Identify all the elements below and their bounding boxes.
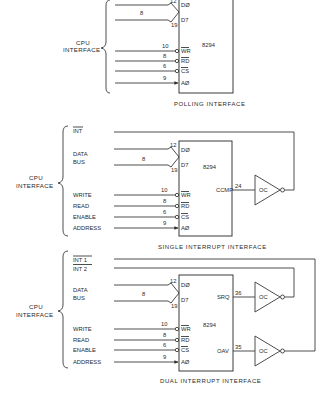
cpu-label: CPU — [29, 303, 43, 310]
int2-label: INT 2 — [73, 266, 87, 272]
svg-text:D7: D7 — [181, 162, 188, 168]
cpu-label: CPU — [76, 39, 90, 46]
diagram-canvas: CPU INTERFACE 8294 8 12 19 DØ D7 10 WR 8… — [0, 0, 334, 405]
svg-text:OAV: OAV — [217, 348, 229, 354]
svg-text:9: 9 — [163, 220, 166, 226]
svg-text:WRITE: WRITE — [73, 192, 92, 198]
svg-text:AØ: AØ — [181, 225, 190, 231]
svg-text:CS: CS — [181, 214, 189, 220]
interface-label: INTERFACE — [16, 311, 53, 318]
chip-label: 8294 — [202, 42, 216, 48]
svg-text:19: 19 — [171, 22, 177, 28]
svg-text:DATA: DATA — [73, 287, 88, 293]
svg-text:19: 19 — [171, 167, 177, 173]
svg-text:CCMP: CCMP — [216, 187, 233, 193]
svg-text:12: 12 — [170, 142, 176, 148]
svg-text:12: 12 — [170, 0, 176, 4]
svg-text:DATA: DATA — [73, 151, 88, 157]
svg-text:CS: CS — [181, 347, 189, 353]
svg-text:AØ: AØ — [181, 359, 190, 365]
svg-text:35: 35 — [235, 344, 241, 350]
svg-text:DØ: DØ — [181, 2, 190, 8]
svg-text:8: 8 — [163, 198, 166, 204]
cpu-interface-brace — [101, 0, 110, 93]
svg-text:WR: WR — [181, 326, 191, 332]
cpu-label: CPU — [29, 174, 43, 181]
svg-text:DØ: DØ — [181, 282, 190, 288]
svg-text:ENABLE: ENABLE — [73, 214, 96, 220]
svg-text:ADDRESS: ADDRESS — [73, 225, 101, 231]
svg-text:10: 10 — [162, 43, 168, 49]
svg-text:8: 8 — [142, 291, 145, 297]
svg-text:WRITE: WRITE — [73, 326, 92, 332]
svg-text:19: 19 — [171, 303, 177, 309]
svg-text:RD: RD — [181, 203, 189, 209]
svg-text:36: 36 — [235, 290, 241, 296]
svg-text:RD: RD — [181, 337, 189, 343]
svg-text:10: 10 — [161, 187, 167, 193]
cpu-interface-brace — [58, 126, 68, 236]
svg-text:OC: OC — [259, 187, 268, 193]
svg-text:6: 6 — [163, 63, 166, 69]
svg-text:ENABLE: ENABLE — [73, 347, 96, 353]
diagram-caption: POLLING INTERFACE — [174, 101, 246, 107]
svg-text:8: 8 — [142, 156, 145, 162]
svg-text:10: 10 — [161, 321, 167, 327]
svg-text:8: 8 — [163, 53, 166, 59]
svg-text:WR: WR — [181, 192, 191, 198]
chip-label: 8294 — [203, 164, 217, 170]
svg-text:24: 24 — [235, 183, 242, 189]
svg-text:6: 6 — [163, 209, 166, 215]
svg-text:SRQ: SRQ — [217, 294, 230, 300]
control-pins: WRITE 10 WR READ 8 RD ENABLE 6 CS ADDRES… — [73, 187, 191, 231]
int-label: INT — [73, 128, 83, 134]
svg-text:OC: OC — [259, 348, 268, 354]
svg-text:9: 9 — [163, 354, 166, 360]
svg-text:8: 8 — [140, 10, 143, 16]
int1-label: INT 1 — [73, 257, 87, 263]
svg-text:DØ: DØ — [181, 147, 190, 153]
svg-text:12: 12 — [170, 278, 176, 284]
svg-text:READ: READ — [73, 337, 89, 343]
dual-interrupt-interface-diagram: CPU INTERFACE INT 1 INT 2 DATA BUS 8294 … — [16, 251, 315, 384]
svg-text:6: 6 — [163, 342, 166, 348]
svg-text:RD: RD — [181, 58, 189, 64]
svg-text:OC: OC — [259, 294, 268, 300]
diagram-caption: DUAL INTERRUPT INTERFACE — [160, 378, 261, 384]
svg-text:BUS: BUS — [73, 295, 85, 301]
svg-text:9: 9 — [163, 75, 166, 81]
svg-text:READ: READ — [73, 203, 89, 209]
diagram-caption: SINGLE INTERRUPT INTERFACE — [158, 244, 267, 250]
svg-text:BUS: BUS — [73, 159, 85, 165]
svg-text:ADDRESS: ADDRESS — [73, 359, 101, 365]
control-pins: WRITE 10 WR READ 8 RD ENABLE 6 CS ADDRES… — [73, 321, 191, 365]
cpu-interface-brace — [58, 251, 68, 368]
svg-text:D7: D7 — [181, 17, 188, 23]
svg-text:CS: CS — [181, 68, 189, 74]
chip-label: 8294 — [203, 322, 217, 328]
svg-text:WR: WR — [181, 48, 191, 54]
single-interrupt-interface-diagram: CPU INTERFACE INT DATA BUS 8294 8 12 19 … — [16, 126, 294, 250]
svg-text:AØ: AØ — [181, 80, 190, 86]
svg-text:D7: D7 — [181, 297, 188, 303]
svg-text:8: 8 — [163, 332, 166, 338]
interface-label: INTERFACE — [16, 182, 53, 189]
polling-interface-diagram: CPU INTERFACE 8294 8 12 19 DØ D7 10 WR 8… — [63, 0, 246, 107]
interface-label: INTERFACE — [63, 46, 100, 53]
